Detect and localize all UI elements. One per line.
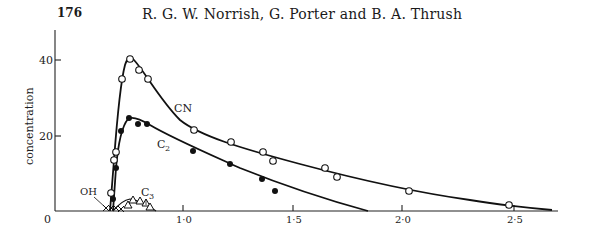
x-tick-label-1-0: 1·0: [176, 214, 192, 225]
c3-label: C 3: [141, 186, 154, 201]
cn-label: CN: [174, 102, 192, 115]
cn-curve: [110, 58, 552, 211]
y-axis-label: concentration: [23, 87, 36, 165]
x-tick-label-2-0: 2·0: [395, 214, 411, 225]
svg-text:2: 2: [165, 144, 170, 153]
concentration-chart: 40 20 0 1·0 1·5 2·0 2·5 concentration: [0, 0, 602, 226]
oh-pointer: [94, 197, 105, 207]
y-tick-label-20: 20: [39, 130, 53, 143]
c2-label: C 2: [157, 138, 170, 153]
x-tick-label-0: 0: [44, 213, 51, 226]
y-tick-label-40: 40: [39, 54, 53, 67]
oh-label: OH: [80, 186, 97, 197]
svg-text:3: 3: [149, 192, 154, 201]
x-tick-label-1-5: 1·5: [286, 214, 302, 225]
cn-points: [108, 56, 513, 209]
x-tick-label-2-5: 2·5: [507, 214, 523, 225]
